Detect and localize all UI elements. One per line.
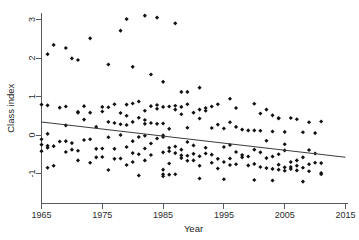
scatter-plot: -10123196519751985199520052015YearClass … [0, 0, 359, 240]
y-tick-label: 0 [27, 132, 37, 137]
y-tick-label: -1 [27, 169, 37, 177]
y-tick-label: 2 [27, 55, 37, 60]
x-tick-label: 1995 [214, 210, 234, 220]
x-tick-label: 2005 [275, 210, 295, 220]
x-axis-title: Year [184, 223, 203, 234]
x-tick-label: 1975 [92, 210, 112, 220]
x-tick-label: 1965 [31, 210, 51, 220]
x-tick-label: 1985 [153, 210, 173, 220]
y-tick-label: 1 [27, 94, 37, 99]
y-tick-label: 3 [27, 17, 37, 22]
y-axis-title: Class index [5, 83, 16, 132]
chart-screenshot: -10123196519751985199520052015YearClass … [0, 0, 359, 240]
x-tick-label: 2015 [335, 210, 355, 220]
